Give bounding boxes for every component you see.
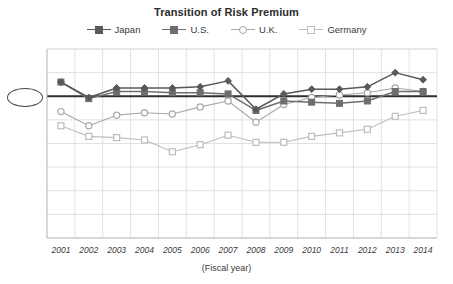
x-axis-tick-label: 2013	[386, 245, 405, 255]
x-axis-tick-label: 2003	[107, 245, 126, 255]
x-axis-labels: 2001200220032004200520062007200820092010…	[0, 0, 453, 284]
x-axis-tick-label: 2005	[163, 245, 182, 255]
x-axis-tick-label: 2004	[135, 245, 154, 255]
x-axis-tick-label: 2002	[79, 245, 98, 255]
risk-premium-chart: Transition of Risk Premium JapanU.S.U.K.…	[0, 0, 453, 284]
x-axis-caption: (Fiscal year)	[0, 263, 453, 273]
x-axis-tick-label: 2008	[246, 245, 265, 255]
x-axis-tick-label: 2009	[274, 245, 293, 255]
x-axis-tick-label: 2010	[302, 245, 321, 255]
x-axis-tick-label: 2001	[51, 245, 70, 255]
x-axis-tick-label: 2011	[330, 245, 348, 255]
x-axis-tick-label: 2007	[219, 245, 238, 255]
x-axis-tick-label: 2006	[191, 245, 210, 255]
x-axis-tick-label: 2012	[358, 245, 377, 255]
x-axis-tick-label: 2014	[414, 245, 433, 255]
